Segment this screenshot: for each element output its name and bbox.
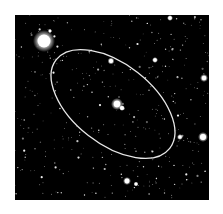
- star-field-image: [15, 15, 209, 200]
- star-field-canvas: [15, 15, 209, 200]
